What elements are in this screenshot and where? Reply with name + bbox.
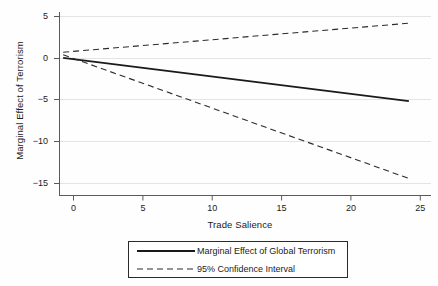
y-axis-label: Marginal Effect of Terrorism [14, 26, 25, 176]
x-axis-label: Trade Salience [160, 219, 320, 230]
legend-solid-line-icon [135, 245, 197, 257]
legend-entry-solid: Marginal Effect of Global Terrorism [129, 242, 347, 260]
x-tick-label: 20 [338, 203, 364, 213]
y-tick-marks [54, 17, 59, 184]
legend-dashed-line-icon [135, 263, 197, 275]
chart-legend: Marginal Effect of Global Terrorism 95% … [128, 241, 348, 278]
legend-label: 95% Confidence Interval [197, 264, 295, 274]
y-tick-label: −15 [18, 178, 48, 188]
plot-background [59, 12, 431, 196]
x-tick-label: 0 [61, 203, 87, 213]
legend-label: Marginal Effect of Global Terrorism [197, 246, 335, 256]
chart-figure: 5 0 −5 −10 −15 0 5 10 15 20 25 Marginal … [0, 0, 438, 286]
x-tick-label: 15 [269, 203, 295, 213]
x-tick-label: 10 [199, 203, 225, 213]
y-tick-label: 5 [18, 11, 48, 21]
x-tick-marks [74, 196, 421, 201]
legend-entry-dashed: 95% Confidence Interval [129, 260, 347, 278]
x-tick-label: 25 [407, 203, 433, 213]
x-tick-label: 5 [130, 203, 156, 213]
